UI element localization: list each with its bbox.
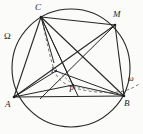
point-marker-A [13,96,16,99]
label-vertex-b: B [124,99,130,108]
segment-CM [41,17,115,25]
segment-M-to-I-extended [40,25,115,99]
segment-IB [56,71,124,96]
segment-AB [14,96,124,97]
geometry-canvas [0,0,143,134]
segment-AM [14,25,115,97]
point-marker-M [114,24,117,27]
label-incenter-i: I [51,67,54,75]
point-marker-C [40,16,43,19]
segment-MB [115,25,124,96]
geometry-figure: Ω ω A B C M I P [0,0,143,134]
label-vertex-c: C [35,3,41,12]
label-circle-omega-small: ω [128,75,134,83]
circle-omega-small-arc [41,17,139,92]
label-vertex-a: A [5,100,11,109]
label-point-p: P [69,86,74,94]
segment-AC [14,17,41,97]
label-circumcircle-omega-big: Ω [4,32,11,41]
label-point-m: M [113,10,121,19]
point-marker-I [55,70,57,72]
point-marker-B [123,95,126,98]
